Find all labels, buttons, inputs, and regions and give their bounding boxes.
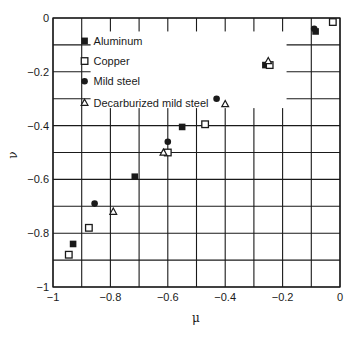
legend-item-label: Copper [94, 55, 130, 67]
legend: AluminumCopperMild steelDecarburized mil… [81, 31, 286, 108]
legend-marker-filled-square-icon [81, 38, 88, 45]
y-tick-label: −0.6 [27, 173, 49, 185]
data-point-filled-circle-icon [311, 25, 318, 32]
legend-marker-open-square-icon [81, 58, 88, 65]
x-axis-ticks: −1−0.8−0.6−0.4−0.20 [47, 291, 343, 303]
y-tick-label: −0.2 [27, 66, 49, 78]
legend-item-label: Decarburized mild steel [94, 97, 209, 109]
x-tick-label: 0 [337, 291, 343, 303]
data-point-filled-square-icon [70, 241, 77, 248]
y-axis-label: ν [6, 151, 20, 158]
data-point-filled-circle-icon [165, 138, 172, 145]
x-tick-label: −0.8 [100, 291, 122, 303]
y-tick-label: −0.8 [27, 227, 49, 239]
data-point-filled-square-icon [131, 173, 138, 180]
data-point-open-square-icon [65, 251, 72, 258]
x-tick-label: −0.6 [157, 291, 179, 303]
legend-item-label: Mild steel [94, 75, 140, 87]
scatter-chart: −1−0.8−0.6−0.4−0.20 0−0.2−0.4−0.6−0.8−1 … [0, 0, 362, 338]
data-point-open-square-icon [86, 225, 93, 232]
legend-marker-filled-circle-icon [81, 78, 88, 85]
legend-item-label: Aluminum [94, 35, 143, 47]
y-axis-ticks: 0−0.2−0.4−0.6−0.8−1 [27, 12, 49, 293]
y-tick-label: −0.4 [27, 120, 49, 132]
x-tick-label: −0.4 [214, 291, 236, 303]
data-point-filled-circle-icon [213, 95, 220, 102]
data-point-filled-square-icon [179, 124, 186, 131]
x-tick-label: −0.2 [272, 291, 294, 303]
x-axis-label: μ [192, 311, 200, 325]
data-point-open-square-icon [330, 19, 337, 26]
data-point-open-square-icon [202, 121, 209, 128]
y-tick-label: 0 [43, 12, 49, 24]
data-point-filled-circle-icon [91, 200, 98, 207]
y-tick-label: −1 [36, 281, 49, 293]
